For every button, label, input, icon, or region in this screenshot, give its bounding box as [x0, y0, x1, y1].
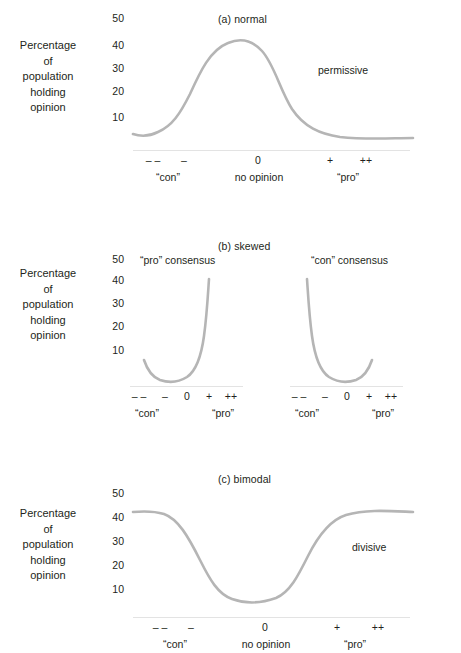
x-group-label: “con” — [156, 170, 180, 184]
y-tick-label: 50 — [100, 488, 124, 499]
x-tick-label: 0 — [262, 620, 268, 634]
y-axis-caption-line: holding — [2, 553, 94, 569]
y-axis-caption-line: opinion — [2, 568, 94, 584]
x-group-label: no opinion — [235, 170, 283, 184]
x-axis-baseline-b-left — [130, 386, 243, 387]
y-tick-label: 20 — [100, 86, 124, 97]
y-tick-label: 50 — [100, 13, 124, 24]
y-tick-label: 30 — [100, 63, 124, 74]
y-axis-caption-b: Percentage of population holding opinion — [2, 266, 94, 344]
y-axis-caption-line: Percentage — [2, 506, 94, 522]
figure-opinion-distributions: (a) normal Percentage of population hold… — [0, 0, 461, 653]
x-tick-label: + — [334, 620, 340, 634]
x-tick-label: – — [322, 389, 328, 403]
y-axis-caption-line: of — [2, 54, 94, 70]
x-group-label: no opinion — [242, 637, 290, 651]
x-group-label: “pro” — [344, 637, 366, 651]
curve-con-consensus — [290, 270, 415, 385]
y-axis-caption-line: population — [2, 69, 94, 85]
y-axis-caption-line: Percentage — [2, 266, 94, 282]
y-tick-label: 40 — [100, 40, 124, 51]
y-tick-label: 20 — [100, 321, 124, 332]
x-tick-label: 0 — [344, 389, 350, 403]
x-tick-label: – – — [153, 620, 168, 634]
x-axis-baseline-c — [133, 617, 410, 618]
x-group-label: “con” — [295, 406, 319, 420]
annotation-permissive: permissive — [318, 64, 368, 76]
y-tick-label: 40 — [100, 512, 124, 523]
curve-pro-consensus — [130, 270, 250, 385]
y-axis-caption-line: population — [2, 297, 94, 313]
y-axis-caption-line: holding — [2, 313, 94, 329]
x-tick-row-a: – – – 0 + ++ — [0, 153, 461, 167]
x-axis-baseline-b-right — [290, 386, 403, 387]
annotation-divisive: divisive — [352, 541, 386, 553]
y-tick-label: 30 — [100, 536, 124, 547]
x-tick-label: + — [366, 389, 372, 403]
x-tick-label: ++ — [372, 620, 384, 634]
annotation-pro-consensus: “pro” consensus — [140, 254, 215, 266]
panel-bimodal: (c) bimodal Percentage of population hol… — [0, 456, 461, 653]
y-axis-caption-line: Percentage — [2, 38, 94, 54]
x-tick-label: 0 — [255, 153, 261, 167]
y-tick-label: 40 — [100, 275, 124, 286]
x-tick-label: ++ — [360, 153, 372, 167]
panel-title-b: (b) skewed — [218, 240, 270, 252]
x-tick-label: – – — [146, 153, 161, 167]
curve-normal — [128, 10, 418, 146]
x-group-row-b-right: “con” “pro” — [0, 406, 461, 420]
panel-normal: (a) normal Percentage of population hold… — [0, 0, 461, 218]
y-axis-caption-line: population — [2, 537, 94, 553]
x-group-label: “con” — [163, 637, 187, 651]
y-tick-label: 30 — [100, 298, 124, 309]
y-axis-caption-line: opinion — [2, 328, 94, 344]
y-tick-label: 10 — [100, 584, 124, 595]
x-tick-label: + — [327, 153, 333, 167]
x-tick-row-c: – – – 0 + ++ — [0, 620, 461, 634]
x-group-row-c: “con” no opinion “pro” — [0, 637, 461, 651]
y-axis-caption-line: of — [2, 522, 94, 538]
x-tick-label: – — [181, 153, 187, 167]
x-tick-row-b-right: – – – 0 + ++ — [0, 389, 461, 403]
y-axis-caption-line: opinion — [2, 100, 94, 116]
x-group-row-a: “con” no opinion “pro” — [0, 170, 461, 184]
y-tick-label: 10 — [100, 112, 124, 123]
x-group-label: “pro” — [372, 406, 394, 420]
y-axis-caption-c: Percentage of population holding opinion — [2, 506, 94, 584]
y-axis-caption-line: holding — [2, 85, 94, 101]
x-tick-label: ++ — [385, 389, 397, 403]
y-tick-label: 10 — [100, 345, 124, 356]
x-tick-label: – — [188, 620, 194, 634]
y-axis-caption-a: Percentage of population holding opinion — [2, 38, 94, 116]
y-tick-label: 20 — [100, 560, 124, 571]
panel-skewed: (b) skewed Percentage of population hold… — [0, 228, 461, 446]
x-axis-baseline-a — [133, 150, 410, 151]
x-tick-label: – – — [292, 389, 307, 403]
annotation-con-consensus: “con” consensus — [311, 254, 388, 266]
x-group-label: “pro” — [337, 170, 359, 184]
y-axis-caption-line: of — [2, 282, 94, 298]
y-tick-label: 50 — [100, 254, 124, 265]
